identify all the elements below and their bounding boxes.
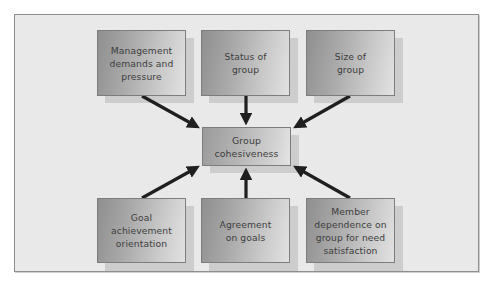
node-label: Group cohesiveness [214,134,278,160]
node-management-demands: Management demands and pressure [97,30,186,96]
node-size-of-group: Size of group [306,30,395,96]
arrow-goal-achievement-to-cohesiveness [142,168,196,198]
node-label: Size of group [335,50,366,76]
node-label: Agreement on goals [220,218,272,244]
arrow-size-to-cohesiveness [297,96,350,126]
node-label: Management demands and pressure [110,44,174,83]
node-label: Status of group [225,50,267,76]
arrow-member-dependence-to-cohesiveness [297,168,350,198]
arrow-management-to-cohesiveness [142,96,196,126]
node-label: Member dependence on group for need sati… [314,205,386,257]
node-group-cohesiveness: Group cohesiveness [202,127,291,166]
node-goal-achievement: Goal achievement orientation [97,198,186,263]
node-status-of-group: Status of group [201,30,290,96]
node-agreement-on-goals: Agreement on goals [201,198,290,263]
node-label: Goal achievement orientation [111,211,172,250]
node-member-dependence: Member dependence on group for need sati… [306,198,395,263]
